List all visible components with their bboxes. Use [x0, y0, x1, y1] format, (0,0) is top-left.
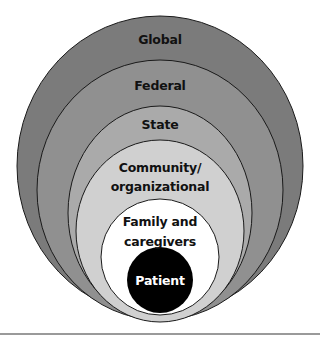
- label-family-line2: caregivers: [124, 234, 196, 249]
- label-federal: Federal: [134, 78, 185, 93]
- label-patient: Patient: [135, 273, 185, 288]
- label-family-line1: Family and: [123, 214, 198, 229]
- nested-levels-diagram: Global Federal State Community/ organiza…: [0, 0, 320, 337]
- label-global: Global: [138, 32, 182, 47]
- bottom-rule-divider: [0, 333, 320, 335]
- label-state: State: [142, 117, 179, 132]
- label-community-line1: Community/: [119, 160, 202, 175]
- label-community-line2: organizational: [111, 179, 210, 194]
